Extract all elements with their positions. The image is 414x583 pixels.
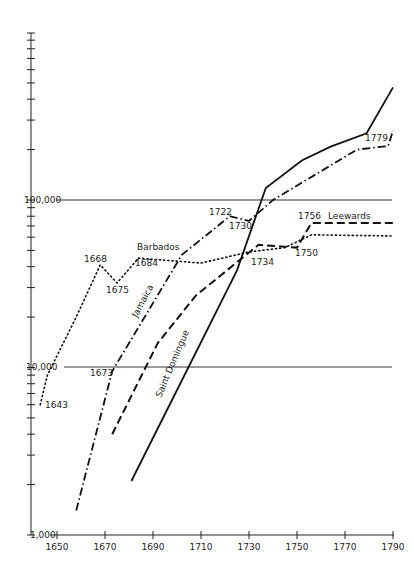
annotation-1730: 1730: [229, 221, 252, 231]
x-tick-label: 1690: [142, 542, 165, 552]
x-tick-label: 1670: [94, 542, 117, 552]
x-tick-label: 1790: [382, 542, 405, 552]
x-tick-labels: 16501670169017101730175017701790: [46, 542, 405, 552]
y-axis: [27, 33, 35, 535]
annotation-1643: 1643: [45, 400, 68, 410]
annotation-1750: 1750: [295, 248, 318, 258]
annotation-1722: 1722: [209, 207, 232, 217]
series-leewards: [112, 223, 393, 434]
label-leewards: Leewards: [328, 211, 371, 221]
x-tick-label: 1770: [334, 542, 357, 552]
x-tick-label: 1730: [238, 542, 261, 552]
series-saint-domingue: [131, 87, 393, 481]
label-jamaica: Jamaica: [129, 283, 155, 320]
chart: 100,000 10,000 1,000 1650167016901710173…: [0, 0, 414, 583]
annotation-1668: 1668: [84, 254, 107, 264]
label-barbados: Barbados: [137, 242, 180, 252]
annotation-1756: 1756: [298, 211, 321, 221]
x-axis: [50, 531, 394, 539]
annotation-1734: 1734: [251, 257, 274, 267]
annotation-1779: 1779: [365, 133, 388, 143]
series-jamaica: [76, 131, 393, 511]
label-saint-domingue: Saint Domingue: [154, 328, 192, 399]
annotation-1673: 1673: [90, 368, 113, 378]
x-tick-label: 1750: [286, 542, 309, 552]
x-tick-label: 1650: [46, 542, 69, 552]
annotation-1684: 1684: [135, 258, 158, 268]
annotation-1675: 1675: [106, 285, 129, 295]
x-tick-label: 1710: [190, 542, 213, 552]
y-label-1000: 1,000: [30, 530, 56, 540]
y-label-100000: 100,000: [24, 195, 61, 205]
